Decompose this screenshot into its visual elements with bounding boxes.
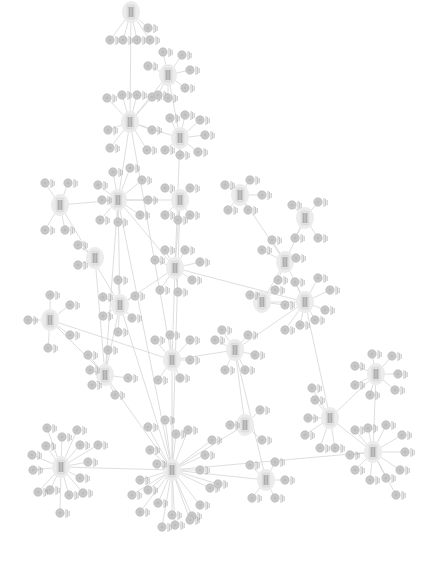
hub-node[interactable] <box>171 261 179 275</box>
leaf-node[interactable] <box>314 234 327 243</box>
leaf-node[interactable] <box>186 211 199 220</box>
leaf-node[interactable] <box>391 386 404 395</box>
leaf-node[interactable] <box>43 424 56 433</box>
leaf-node[interactable] <box>104 346 117 355</box>
leaf-node[interactable] <box>181 246 194 255</box>
hub-node[interactable] <box>91 251 99 265</box>
leaf-node[interactable] <box>368 350 381 359</box>
leaf-node[interactable] <box>292 254 305 263</box>
leaf-node[interactable] <box>188 276 201 285</box>
leaf-node[interactable] <box>196 258 209 267</box>
leaf-node[interactable] <box>221 366 234 375</box>
hub-node[interactable] <box>262 473 270 487</box>
leaf-node[interactable] <box>248 494 261 503</box>
leaf-node[interactable] <box>271 286 284 295</box>
leaf-node[interactable] <box>351 426 364 435</box>
leaf-node[interactable] <box>151 336 164 345</box>
leaf-node[interactable] <box>94 181 107 190</box>
leaf-node[interactable] <box>181 111 194 120</box>
hub-node[interactable] <box>116 298 124 312</box>
hub-node[interactable] <box>326 411 334 425</box>
leaf-node[interactable] <box>76 474 89 483</box>
hub-node[interactable] <box>168 463 176 477</box>
leaf-node[interactable] <box>258 191 271 200</box>
leaf-node[interactable] <box>351 466 364 475</box>
leaf-node[interactable] <box>64 179 77 188</box>
leaf-node[interactable] <box>133 91 146 100</box>
leaf-node[interactable] <box>256 406 269 415</box>
leaf-node[interactable] <box>366 391 379 400</box>
leaf-node[interactable] <box>271 458 284 467</box>
leaf-node[interactable] <box>281 476 294 485</box>
leaf-node[interactable] <box>56 509 69 518</box>
leaf-node[interactable] <box>396 466 409 475</box>
leaf-node[interactable] <box>326 286 339 295</box>
leaf-node[interactable] <box>79 489 92 498</box>
leaf-node[interactable] <box>186 66 199 75</box>
leaf-node[interactable] <box>171 521 184 530</box>
leaf-node[interactable] <box>109 168 122 177</box>
leaf-node[interactable] <box>244 206 257 215</box>
leaf-node[interactable] <box>176 374 189 383</box>
leaf-node[interactable] <box>44 344 57 353</box>
leaf-node[interactable] <box>76 441 89 450</box>
leaf-node[interactable] <box>401 448 414 457</box>
leaf-node[interactable] <box>351 381 364 390</box>
leaf-node[interactable] <box>186 184 199 193</box>
leaf-node[interactable] <box>224 206 237 215</box>
leaf-node[interactable] <box>161 146 174 155</box>
leaf-node[interactable] <box>144 24 157 33</box>
leaf-node[interactable] <box>106 144 119 153</box>
leaf-node[interactable] <box>114 218 127 227</box>
leaf-node[interactable] <box>392 491 405 500</box>
leaf-node[interactable] <box>84 458 97 467</box>
hub-node[interactable] <box>241 418 249 432</box>
leaf-node[interactable] <box>46 291 59 300</box>
leaf-node[interactable] <box>321 306 334 315</box>
leaf-node[interactable] <box>154 376 167 385</box>
hub-node[interactable] <box>164 68 172 82</box>
leaf-node[interactable] <box>351 362 364 371</box>
hub-node[interactable] <box>56 198 64 212</box>
leaf-node[interactable] <box>164 94 177 103</box>
leaf-node[interactable] <box>111 391 124 400</box>
leaf-node[interactable] <box>221 181 234 190</box>
leaf-node[interactable] <box>159 48 172 57</box>
leaf-node[interactable] <box>94 441 107 450</box>
leaf-node[interactable] <box>364 424 377 433</box>
leaf-node[interactable] <box>66 301 79 310</box>
hub-node[interactable] <box>301 211 309 225</box>
leaf-node[interactable] <box>74 241 87 250</box>
leaf-node[interactable] <box>201 131 214 140</box>
leaf-node[interactable] <box>73 426 86 435</box>
hub-node[interactable] <box>114 193 122 207</box>
leaf-node[interactable] <box>258 436 271 445</box>
leaf-node[interactable] <box>366 476 379 485</box>
hub-node[interactable] <box>46 313 54 327</box>
hub-node[interactable] <box>369 445 377 459</box>
leaf-node[interactable] <box>34 488 47 497</box>
leaf-node[interactable] <box>103 94 116 103</box>
leaf-node[interactable] <box>128 491 141 500</box>
leaf-node[interactable] <box>61 226 74 235</box>
leaf-node[interactable] <box>161 211 174 220</box>
leaf-node[interactable] <box>316 444 329 453</box>
leaf-node[interactable] <box>136 508 149 517</box>
leaf-node[interactable] <box>84 351 97 360</box>
hub-node[interactable] <box>372 367 380 381</box>
leaf-node[interactable] <box>99 312 112 321</box>
leaf-node[interactable] <box>168 511 181 520</box>
leaf-node[interactable] <box>172 430 185 439</box>
leaf-node[interactable] <box>196 116 209 125</box>
leaf-node[interactable] <box>291 234 304 243</box>
leaf-node[interactable] <box>388 352 401 361</box>
leaf-node[interactable] <box>251 351 264 360</box>
leaf-node[interactable] <box>166 331 179 340</box>
leaf-node[interactable] <box>241 366 254 375</box>
leaf-node[interactable] <box>96 216 109 225</box>
leaf-node[interactable] <box>41 226 54 235</box>
leaf-node[interactable] <box>178 51 191 60</box>
hub-node[interactable] <box>231 343 239 357</box>
leaf-node[interactable] <box>146 446 159 455</box>
leaf-node[interactable] <box>331 444 344 453</box>
